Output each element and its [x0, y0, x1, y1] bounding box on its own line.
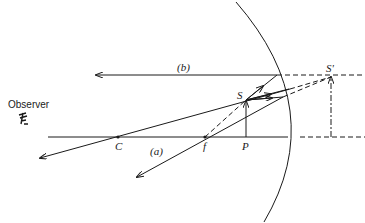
label-s: S — [237, 89, 243, 101]
ray-through-center-extension — [290, 77, 331, 89]
label-p: P — [241, 140, 249, 152]
ray-a-extension — [283, 77, 331, 97]
label-s-prime: S' — [326, 62, 335, 74]
label-f: f — [203, 140, 208, 152]
ray-diagram: C f P S S' (a) (b) Observer — [0, 0, 365, 223]
observer-label: Observer — [8, 99, 50, 110]
label-ray-b: (b) — [177, 61, 190, 74]
eye-icon — [19, 113, 28, 124]
construction-line-f-to-s — [205, 100, 246, 137]
mirror-surface — [236, 2, 291, 222]
label-c: C — [115, 140, 123, 152]
point-c — [116, 135, 119, 138]
label-ray-a: (a) — [150, 145, 163, 158]
point-f — [203, 135, 206, 138]
